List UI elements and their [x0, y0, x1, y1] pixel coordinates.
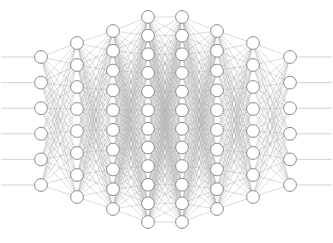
- neuron-node: [176, 48, 189, 61]
- neuron-node: [211, 143, 224, 156]
- neuron-node: [284, 102, 297, 115]
- neuron-node: [142, 141, 155, 154]
- neuron-node: [211, 64, 224, 77]
- neuron-node: [211, 25, 224, 38]
- neuron-node: [71, 191, 84, 204]
- neuron-node: [107, 84, 120, 97]
- neuron-node: [176, 178, 189, 191]
- neuron-node: [247, 37, 260, 50]
- neuron-node: [107, 143, 120, 156]
- neuron-node: [284, 179, 297, 192]
- neuron-node: [107, 25, 120, 38]
- neuron-node: [35, 153, 48, 166]
- neuron-node: [176, 11, 189, 24]
- neuron-node: [35, 76, 48, 89]
- neuron-node: [142, 29, 155, 42]
- neuron-node: [247, 147, 260, 160]
- neuron-node: [176, 160, 189, 173]
- neuron-node: [71, 59, 84, 72]
- neuron-node: [142, 122, 155, 135]
- neuron-node: [142, 178, 155, 191]
- neuron-node: [35, 102, 48, 115]
- neural-network-diagram: [0, 0, 333, 243]
- neuron-node: [107, 64, 120, 77]
- neuron-node: [284, 76, 297, 89]
- neuron-node: [284, 127, 297, 140]
- neuron-node: [176, 216, 189, 229]
- neuron-node: [71, 147, 84, 160]
- neuron-node: [142, 48, 155, 61]
- network-canvas: [0, 0, 333, 243]
- neuron-node: [247, 59, 260, 72]
- neuron-node: [247, 103, 260, 116]
- neuron-node: [107, 104, 120, 117]
- neuron-node: [142, 197, 155, 210]
- neuron-node: [71, 169, 84, 182]
- neuron-node: [71, 37, 84, 50]
- neuron-node: [142, 104, 155, 117]
- neuron-node: [284, 51, 297, 64]
- neuron-node: [142, 216, 155, 229]
- neuron-node: [71, 125, 84, 138]
- neuron-node: [247, 191, 260, 204]
- neuron-node: [176, 104, 189, 117]
- neuron-node: [107, 44, 120, 57]
- neuron-node: [211, 183, 224, 196]
- neuron-node: [176, 67, 189, 80]
- neuron-node: [107, 163, 120, 176]
- neuron-node: [107, 183, 120, 196]
- neuron-node: [211, 44, 224, 57]
- neuron-node: [176, 29, 189, 42]
- neuron-node: [211, 203, 224, 216]
- neuron-node: [142, 11, 155, 24]
- neuron-node: [247, 81, 260, 94]
- neuron-node: [35, 179, 48, 192]
- neuron-node: [176, 122, 189, 135]
- neuron-node: [142, 67, 155, 80]
- neuron-node: [176, 141, 189, 154]
- neuron-node: [142, 160, 155, 173]
- neuron-node: [107, 203, 120, 216]
- neuron-node: [35, 127, 48, 140]
- neuron-node: [247, 169, 260, 182]
- neuron-node: [71, 103, 84, 116]
- neuron-node: [211, 84, 224, 97]
- neuron-node: [176, 85, 189, 98]
- neuron-node: [71, 81, 84, 94]
- neuron-node: [211, 123, 224, 136]
- neuron-node: [211, 104, 224, 117]
- neuron-node: [107, 123, 120, 136]
- neuron-node: [284, 153, 297, 166]
- neuron-node: [142, 85, 155, 98]
- neuron-node: [211, 163, 224, 176]
- neuron-node: [176, 197, 189, 210]
- neuron-node: [35, 51, 48, 64]
- neuron-node: [247, 125, 260, 138]
